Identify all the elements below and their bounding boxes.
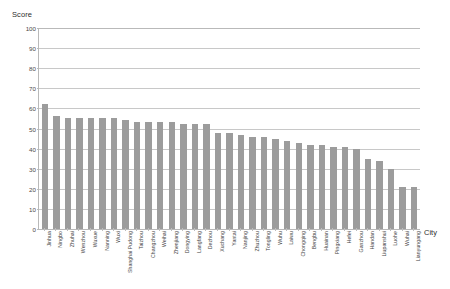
x-axis-tick-label: Huainan [323, 231, 329, 251]
x-axis-tick-mark [148, 228, 149, 231]
bar [42, 104, 48, 229]
x-axis-tick-label: Liupanshui [381, 231, 387, 257]
y-axis-tick-label: 0 [33, 226, 36, 233]
x-axis-tick-label: Nanning [104, 231, 110, 251]
x-axis-tick-label: Wenzhou [80, 231, 86, 253]
x-axis-title: City [424, 228, 437, 237]
x-axis-tick-mark [102, 228, 103, 231]
x-axis-tick-label: Luohe [392, 231, 398, 246]
x-axis-tick-label: Wuxi [115, 231, 121, 243]
x-axis-tick-mark [90, 228, 91, 231]
x-axis-tick-mark [229, 228, 230, 231]
x-axis-tick-label: Wuhu [277, 231, 283, 245]
bar [215, 133, 221, 229]
x-axis-tick-mark [356, 228, 357, 231]
bar [388, 169, 394, 229]
bar [376, 161, 382, 229]
bar [261, 137, 267, 229]
x-axis-tick-mark [263, 228, 264, 231]
x-axis-tick-label: Jinhua [46, 231, 52, 247]
bar [99, 118, 105, 229]
x-axis-tick-mark [402, 228, 403, 231]
x-axis-tick-mark [321, 228, 322, 231]
bar [203, 124, 209, 229]
y-axis-tick-label: 40 [29, 145, 36, 152]
x-axis-tick-label: Handan [369, 231, 375, 249]
x-axis-tick-mark [136, 228, 137, 231]
y-axis-tick-mark [37, 229, 39, 230]
bar [65, 118, 71, 229]
x-axis-tick-label: Xuchang [219, 231, 225, 252]
x-axis-tick-label: Ganzhou [358, 231, 364, 252]
x-axis-tick-label: Tongling [265, 231, 271, 251]
bars-layer [39, 28, 420, 229]
y-axis-tick-label: 10 [29, 205, 36, 212]
bar [353, 149, 359, 229]
x-axis-tick-label: Chongqing [300, 231, 306, 257]
y-axis-tick-label: 70 [29, 85, 36, 92]
bar [88, 118, 94, 229]
x-axis-tick-mark [171, 228, 172, 231]
bar [319, 145, 325, 229]
x-axis-tick-mark [217, 228, 218, 231]
bar [342, 147, 348, 229]
bar [157, 122, 163, 229]
bar-chart: Score City 0102030405060708090100 Jinhua… [0, 0, 450, 289]
bar [249, 137, 255, 229]
x-axis-tick-mark [252, 228, 253, 231]
y-axis-tick-label: 50 [29, 125, 36, 132]
x-axis-tick-label: Dongying [184, 231, 190, 253]
bar [365, 159, 371, 229]
x-axis-tick-label: Changzhou [150, 231, 156, 258]
x-axis-labels: JinhuaNingboZhuhaiWenzhouWuxueNanningWux… [38, 231, 420, 289]
y-axis-tick-label: 80 [29, 65, 36, 72]
x-axis-tick-mark [367, 228, 368, 231]
x-axis-tick-mark [113, 228, 114, 231]
x-axis-tick-label: Ningbo [57, 231, 63, 248]
x-axis-tick-mark [390, 228, 391, 231]
bar [226, 133, 232, 229]
x-axis-tick-mark [344, 228, 345, 231]
bar [192, 124, 198, 229]
x-axis-tick-label: Yantai [231, 231, 237, 246]
bar [411, 187, 417, 229]
y-axis-title: Score [12, 10, 32, 19]
bar [330, 147, 336, 229]
x-axis-tick-mark [194, 228, 195, 231]
bar [296, 143, 302, 229]
bar [111, 118, 117, 229]
bar [307, 145, 313, 229]
x-axis-tick-label: Wuhai [404, 231, 410, 246]
y-axis-tick-label: 30 [29, 165, 36, 172]
bar [238, 135, 244, 229]
x-axis-tick-label: Zhuzhou [254, 231, 260, 252]
bar [180, 124, 186, 229]
x-axis-tick-mark [298, 228, 299, 231]
x-axis-tick-label: Lianyungang [415, 231, 421, 261]
bar [122, 120, 128, 229]
x-axis-tick-label: Laiwu [288, 231, 294, 245]
bar [272, 139, 278, 229]
x-axis-tick-label: Weihai [161, 231, 167, 247]
x-axis-tick-label: Wuxue [92, 231, 98, 247]
bar [284, 141, 290, 229]
x-axis-tick-mark [44, 228, 45, 231]
x-axis-tick-mark [125, 228, 126, 231]
x-axis-tick-label: Hefei [346, 231, 352, 243]
x-axis-tick-label: Nanjing [242, 231, 248, 249]
x-axis-tick-mark [379, 228, 380, 231]
x-axis-tick-label: Zhuhai [69, 231, 75, 247]
x-axis-tick-label: Taizhou [138, 231, 144, 249]
x-axis-tick-mark [240, 228, 241, 231]
bar [145, 122, 151, 229]
x-axis-tick-label: Bengbu [311, 231, 317, 249]
y-axis-tick-label: 60 [29, 105, 36, 112]
x-axis-tick-mark [275, 228, 276, 231]
x-axis-tick-label: Zhenjiang [173, 231, 179, 254]
x-axis-tick-label: Langfang [196, 231, 202, 253]
y-axis-tick-label: 90 [29, 45, 36, 52]
x-axis-tick-mark [67, 228, 68, 231]
bar [399, 187, 405, 229]
y-axis-tick-label: 20 [29, 185, 36, 192]
x-axis-tick-label: Shanghai Pudong [127, 231, 133, 273]
